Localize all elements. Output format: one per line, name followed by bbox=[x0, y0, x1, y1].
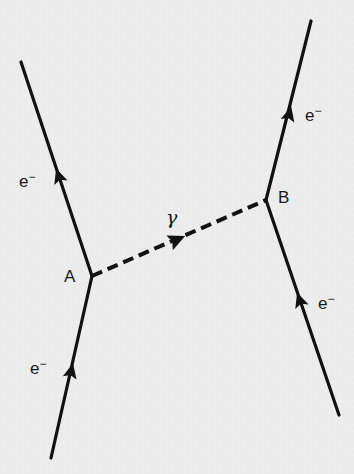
feynman-diagram: e− e− e− e− γ A B bbox=[0, 0, 354, 474]
charge-superscript: − bbox=[39, 357, 46, 371]
charge-superscript: − bbox=[314, 104, 321, 118]
electron-label-upper-right: e− bbox=[305, 105, 321, 124]
charge-superscript: − bbox=[327, 292, 334, 306]
electron-label-upper-left: e− bbox=[19, 171, 35, 190]
electron-label-lower-left: e− bbox=[30, 358, 46, 377]
electron-label-lower-right: e− bbox=[318, 293, 334, 312]
vertex-label-b: B bbox=[278, 189, 289, 206]
photon-label: γ bbox=[166, 208, 177, 227]
diagram-svg bbox=[0, 0, 354, 474]
charge-superscript: − bbox=[28, 170, 35, 184]
vertex-label-a: A bbox=[64, 268, 75, 285]
